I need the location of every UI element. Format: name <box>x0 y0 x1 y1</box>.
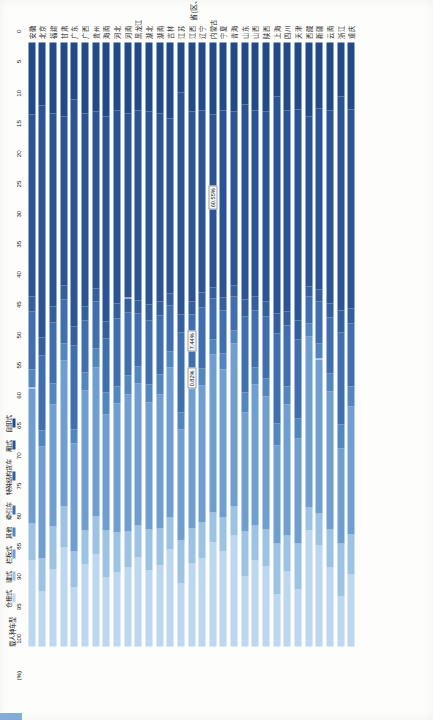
value-axis-tick: 95 <box>14 603 21 629</box>
bar-segment <box>315 42 322 108</box>
table-row <box>241 42 248 646</box>
bar-segment <box>134 42 141 110</box>
bar-segment <box>134 313 141 366</box>
bar-segment <box>230 111 237 285</box>
bar-segment <box>262 42 269 111</box>
bar-segment <box>113 303 120 318</box>
bar-segment <box>166 42 173 118</box>
bar-segment <box>70 345 77 428</box>
bar-segment <box>124 113 131 298</box>
table-row <box>124 42 131 646</box>
bar-segment <box>251 367 258 384</box>
category-axis-label: 河北 <box>113 26 120 38</box>
bar-segment <box>273 333 280 422</box>
bar-segment <box>166 118 173 293</box>
bar-segment <box>92 42 99 111</box>
bar-segment <box>134 300 141 313</box>
bar-segment <box>347 386 354 405</box>
bar-segment <box>81 113 88 306</box>
bar-segment <box>198 292 205 307</box>
bar-segment <box>209 42 216 114</box>
table-row <box>70 42 77 646</box>
bar-segment <box>81 372 88 390</box>
bar-segment <box>145 384 152 402</box>
bar-segment <box>49 404 56 526</box>
bar-segment <box>294 42 301 109</box>
bar-segment <box>92 554 99 646</box>
bar-segment <box>177 583 184 646</box>
bar-segment <box>60 285 67 298</box>
bar-segment <box>305 336 312 508</box>
category-axis-label: 新疆 <box>315 26 322 38</box>
bar-segment <box>326 567 333 646</box>
bar-segment <box>124 312 131 375</box>
bar-segment <box>294 109 301 320</box>
bar-segment <box>283 110 290 311</box>
legend-item-label: 牵引车 <box>4 501 11 519</box>
category-axis-label: 内蒙古 <box>209 20 216 38</box>
bar-segment <box>81 564 88 646</box>
table-row <box>145 42 152 646</box>
bar-segment <box>81 42 88 113</box>
bar-segment <box>28 369 35 388</box>
bar-segment <box>49 306 56 322</box>
bar-segment <box>156 374 163 393</box>
bar-segment <box>294 589 301 646</box>
bar-segment <box>156 42 163 113</box>
bar-segment <box>70 42 77 99</box>
category-axis-label: 湖南 <box>156 26 163 38</box>
bar-segment <box>134 557 141 646</box>
table-row <box>315 42 322 646</box>
table-row <box>326 42 333 646</box>
bar-segment <box>49 526 56 569</box>
value-axis-tick: 20 <box>14 150 21 176</box>
legend-item-label: 栏板式 <box>4 545 11 563</box>
bar-segment <box>283 404 290 534</box>
bar-segment <box>60 547 67 646</box>
bar-segment <box>38 337 45 355</box>
bar-segment <box>113 42 120 110</box>
category-axis-label: 吉林 <box>166 26 173 38</box>
bar-segment <box>166 351 173 367</box>
bar-segment <box>230 285 237 296</box>
bar-segment <box>38 42 45 105</box>
bar-segment <box>219 110 226 297</box>
bar-segment <box>315 545 322 646</box>
value-axis-tick: 100 <box>14 633 21 659</box>
value-axis-tick: 15 <box>14 120 21 146</box>
table-row <box>38 42 45 646</box>
bar-segment <box>102 530 109 577</box>
bar-segment <box>198 385 205 522</box>
legend-item-label: 其他 <box>4 526 11 538</box>
category-axis-label: 山西 <box>251 26 258 38</box>
table-row <box>156 42 163 646</box>
category-axis-label: 山东 <box>241 26 248 38</box>
category-axis-label: 江西 <box>188 26 195 38</box>
value-axis-tick: 80 <box>14 512 21 538</box>
bar-segment <box>273 313 280 334</box>
bar-segment <box>166 293 173 305</box>
bar-segment <box>49 383 56 404</box>
category-axis-label: 湖北 <box>145 26 152 38</box>
bar-segment <box>241 576 248 646</box>
bar-segment <box>273 594 280 646</box>
bar-segment <box>294 339 301 418</box>
bar-segment <box>294 418 301 439</box>
bar-segment <box>28 311 35 369</box>
bar-segment <box>156 301 163 315</box>
value-axis-tick: 30 <box>14 210 21 236</box>
bar-segment <box>113 318 120 386</box>
value-axis-tick: 90 <box>14 573 21 599</box>
bar-segment <box>326 110 333 303</box>
bar-segment <box>273 445 280 543</box>
bar-segment <box>145 42 152 111</box>
table-row <box>209 42 216 646</box>
bar-segment <box>315 108 322 289</box>
category-axis-label: 陕西 <box>262 26 269 38</box>
bar-segment <box>124 394 131 532</box>
bar-segment <box>198 368 205 386</box>
value-axis-tick: 60 <box>14 391 21 417</box>
bar-segment <box>337 332 344 424</box>
bar-segment <box>134 366 141 382</box>
bar-segment <box>70 326 77 345</box>
